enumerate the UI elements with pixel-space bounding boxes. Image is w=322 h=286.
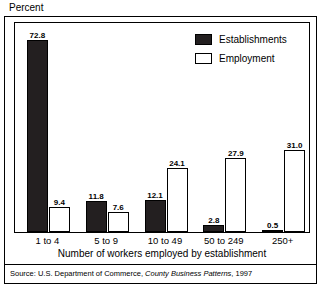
bar-establishments-5-to-9[interactable]: 11.8 — [86, 201, 107, 232]
bar-group: 72.89.4 — [27, 23, 70, 232]
bar-value-label: 7.6 — [113, 203, 124, 212]
bar-value-label: 0.5 — [267, 221, 278, 230]
x-tick-label: 5 to 9 — [94, 234, 118, 247]
bar-value-label: 2.8 — [208, 216, 219, 225]
bar-establishments-50-to-249[interactable]: 2.8 — [203, 225, 224, 232]
x-tick-label: 1 to 4 — [36, 234, 60, 247]
bar-employment-10-to-49[interactable]: 24.1 — [167, 168, 188, 232]
source-note-suffix: , 1997 — [231, 269, 252, 278]
bar-employment-1-to-4[interactable]: 9.4 — [49, 207, 70, 232]
bar-establishments-1-to-4[interactable]: 72.8 — [27, 40, 48, 232]
source-note-publication: County Business Patterns — [145, 269, 231, 278]
bar-employment-5-to-9[interactable]: 7.6 — [108, 212, 129, 232]
y-axis-title: Percent — [9, 2, 43, 14]
x-tick-label: 250+ — [272, 234, 293, 247]
bar-employment-250plus[interactable]: 31.0 — [284, 150, 305, 232]
bar-group: 11.87.6 — [86, 23, 129, 232]
x-tick-label: 10 to 49 — [148, 234, 182, 247]
legend-item-establishments[interactable]: Establishments — [195, 31, 307, 48]
bar-establishments-250plus[interactable]: 0.5 — [262, 230, 283, 232]
bar-employment-50-to-249[interactable]: 27.9 — [225, 158, 246, 232]
bar-value-label: 72.8 — [30, 31, 46, 40]
bar-value-label: 12.1 — [147, 191, 163, 200]
bar-establishments-10-to-49[interactable]: 12.1 — [145, 200, 166, 232]
bar-group: 12.124.1 — [145, 23, 188, 232]
chart-legend: EstablishmentsEmployment — [195, 31, 307, 69]
legend-item-label: Establishments — [219, 34, 287, 45]
source-divider — [5, 264, 316, 265]
bar-value-label: 11.8 — [89, 192, 104, 201]
source-note: Source: U.S. Department of Commerce, Cou… — [10, 269, 252, 279]
figure-container: Percent 72.89.411.87.612.124.12.827.90.5… — [0, 0, 322, 286]
legend-swatch-icon — [195, 53, 212, 64]
x-axis-tick-labels: 1 to 45 to 910 to 4950 to 249250+ — [14, 234, 310, 248]
source-note-prefix: Source: U.S. Department of Commerce, — [10, 269, 145, 278]
x-axis-title: Number of workers employed by establishm… — [14, 247, 310, 260]
plot-frame: 72.89.411.87.612.124.12.827.90.531.0 Est… — [14, 22, 310, 233]
bar-value-label: 27.9 — [228, 149, 244, 158]
bar-value-label: 9.4 — [54, 198, 65, 207]
bar-value-label: 31.0 — [287, 141, 303, 150]
legend-item-label: Employment — [219, 53, 275, 64]
bar-value-label: 24.1 — [169, 159, 185, 168]
x-tick-label: 50 to 249 — [204, 234, 244, 247]
legend-item-employment[interactable]: Employment — [195, 50, 307, 67]
legend-swatch-icon — [195, 34, 212, 45]
